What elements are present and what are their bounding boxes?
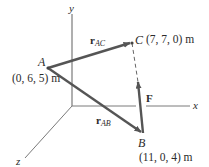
dashed-line-cb [132,43,138,82]
z-axis-line [25,106,72,158]
vector-rab [48,68,141,132]
point-b-coords: (11, 0, 4) m [139,152,193,164]
point-c-dot [130,41,133,44]
vector-f-label: F [146,93,153,104]
vector-rab-label: rAB [96,115,111,128]
y-axis-label: y [69,3,74,14]
vector-rac-label: rAC [90,35,105,48]
point-c-label: C [135,34,143,46]
point-b-label: B [138,137,145,149]
point-a-dot [46,66,49,69]
vector-rac [48,43,130,68]
point-a-coords: (0, 6, 5) m [12,73,60,85]
vector-rab-sub: AB [101,119,111,128]
point-a-label: A [38,56,45,68]
vector-rac-sub: AC [95,39,105,48]
vector-f [138,82,143,133]
x-axis-label: x [193,100,198,111]
z-axis-label: z [16,156,20,167]
point-c-coords: (7, 7, 0) m [146,34,194,46]
position-vector-diagram: y x z A (0, 6, 5) m C (7, 7, 0) m B (11,… [0,0,209,167]
